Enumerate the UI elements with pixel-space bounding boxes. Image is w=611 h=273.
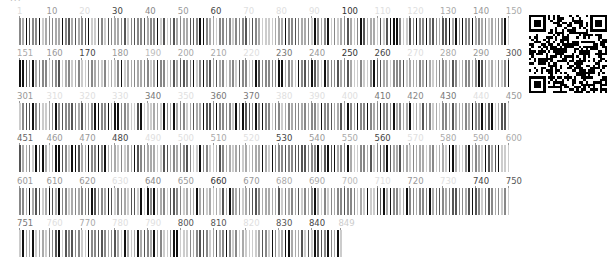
position-bar: [150, 18, 152, 45]
position-bar: [308, 188, 310, 215]
position-bar: [363, 18, 365, 45]
position-bar: [78, 145, 80, 172]
position-bar: [32, 188, 34, 215]
position-bar: [432, 188, 434, 215]
position-bar: [354, 18, 356, 45]
position-label: 480: [112, 133, 128, 143]
position-bar: [199, 230, 201, 257]
position-bar: [403, 103, 405, 130]
position-bar: [216, 188, 218, 215]
position-bar: [78, 188, 80, 215]
position-bar: [422, 188, 424, 215]
position-label: 690: [309, 176, 325, 186]
position-bar: [52, 18, 54, 45]
position-bar: [65, 188, 67, 215]
position-bar: [406, 188, 408, 215]
position-bar: [439, 188, 441, 215]
position-bar: [403, 188, 405, 215]
position-bar: [22, 188, 24, 215]
position-bar: [409, 18, 411, 45]
position-bar: [35, 60, 37, 87]
position-bar: [386, 60, 388, 87]
position-label: 160: [47, 48, 63, 58]
position-bar: [370, 103, 372, 130]
position-bar: [399, 60, 401, 87]
position-label: 80: [276, 6, 287, 16]
position-label: 150: [506, 6, 522, 16]
position-bar: [39, 18, 41, 45]
position-bar: [219, 18, 221, 45]
position-bar: [114, 230, 116, 257]
position-bar: [255, 60, 257, 87]
qr-code: [529, 14, 607, 94]
position-bar: [462, 18, 464, 45]
barcode-row: 1102030405060708090100110120130140150: [0, 6, 530, 48]
position-bar: [314, 18, 316, 45]
position-bar: [239, 103, 241, 130]
position-bar: [465, 18, 467, 45]
position-bar: [186, 103, 188, 130]
position-bar: [340, 188, 342, 215]
position-bar: [481, 18, 483, 45]
position-bar: [334, 60, 336, 87]
position-bar: [167, 103, 169, 130]
position-bar: [485, 18, 487, 45]
position-bar: [249, 103, 251, 130]
position-bar: [209, 188, 211, 215]
position-bar: [285, 188, 287, 215]
position-bar: [344, 60, 346, 87]
position-bar: [121, 145, 123, 172]
position-bar: [203, 230, 205, 257]
position-bar: [314, 188, 316, 215]
position-bar: [226, 230, 228, 257]
position-bar: [153, 103, 155, 130]
position-label: 120: [407, 6, 423, 16]
position-bar: [442, 60, 444, 87]
position-bar: [390, 145, 392, 172]
position-bar: [354, 145, 356, 172]
position-bar: [229, 18, 231, 45]
position-bar: [121, 60, 123, 87]
position-label: 151: [17, 48, 33, 58]
position-bar: [186, 230, 188, 257]
position-bar: [206, 60, 208, 87]
position-bar: [150, 103, 152, 130]
position-bar: [413, 145, 415, 172]
position-bar: [419, 145, 421, 172]
position-bar: [196, 188, 198, 215]
position-bar: [459, 188, 461, 215]
position-bar: [429, 60, 431, 87]
position-bar: [350, 145, 352, 172]
position-bar: [288, 230, 290, 257]
position-label: 730: [440, 176, 456, 186]
position-bar: [413, 188, 415, 215]
position-bar: [32, 103, 34, 130]
position-bar: [85, 188, 87, 215]
position-bar: [301, 230, 303, 257]
position-bar: [88, 188, 90, 215]
position-bar: [285, 230, 287, 257]
position-bar: [150, 188, 152, 215]
position-bar: [288, 60, 290, 87]
position-bar: [344, 103, 346, 130]
position-bar: [416, 103, 418, 130]
position-bar: [206, 188, 208, 215]
position-bar: [452, 188, 454, 215]
position-bar: [396, 60, 398, 87]
position-bar: [357, 18, 359, 45]
position-bar: [262, 18, 264, 45]
position-bar: [298, 145, 300, 172]
position-label: 340: [145, 91, 161, 101]
position-bar: [32, 18, 34, 45]
position-bar: [449, 103, 451, 130]
position-bar: [157, 145, 159, 172]
position-bar: [78, 18, 80, 45]
position-bar: [491, 103, 493, 130]
position-bar: [501, 18, 503, 45]
position-bar: [373, 18, 375, 45]
position-bar: [347, 188, 349, 215]
position-bar: [373, 60, 375, 87]
position-bar: [163, 230, 165, 257]
position-bar: [65, 60, 67, 87]
position-label: 250: [342, 48, 358, 58]
